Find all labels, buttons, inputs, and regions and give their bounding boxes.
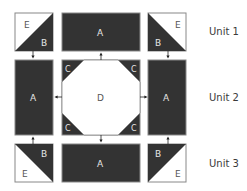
unit-2-label: Unit 2 — [209, 92, 239, 103]
unit-3-label: Unit 3 — [209, 158, 239, 169]
piece-label-e: E — [24, 20, 30, 30]
corner-label-c-tr: C — [131, 65, 137, 74]
unit-2-center-octagon: D C C C C — [62, 60, 140, 135]
unit-3-center-rect: A — [62, 144, 140, 182]
unit-2-left-rect: A — [15, 60, 53, 135]
piece-label-e: E — [22, 169, 28, 179]
corner-label-c-br: C — [131, 124, 137, 133]
unit-2-right-rect: A — [148, 60, 186, 135]
piece-label-a: A — [30, 93, 37, 103]
unit-3-left-hst: B E — [15, 144, 53, 182]
unit-3-right-hst: B E — [148, 144, 186, 182]
piece-label-b: B — [155, 38, 161, 48]
piece-label-a: A — [163, 93, 170, 103]
unit-1-left-hst: E B — [15, 13, 53, 51]
piece-label-b: B — [41, 149, 47, 159]
piece-label-a: A — [97, 28, 104, 38]
quilt-assembly-diagram: E B A E B A D C C C C A — [0, 0, 247, 191]
corner-label-c-bl: C — [65, 124, 71, 133]
unit-1-center-rect: A — [62, 13, 140, 51]
piece-label-a: A — [97, 159, 104, 169]
unit-1-right-hst: E B — [148, 13, 186, 51]
unit-1-label: Unit 1 — [209, 26, 239, 37]
piece-label-e: E — [175, 20, 181, 30]
piece-label-b: B — [41, 38, 47, 48]
piece-label-d: D — [97, 93, 104, 103]
corner-label-c-tl: C — [65, 65, 71, 74]
piece-label-b: B — [155, 149, 161, 159]
piece-label-e: E — [175, 169, 181, 179]
